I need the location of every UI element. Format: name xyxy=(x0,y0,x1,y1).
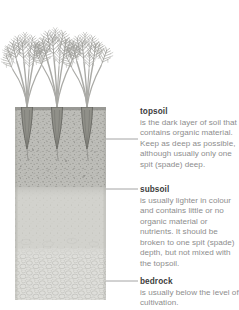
annotation-body-subsoil: is usually lighter in colour and contain… xyxy=(140,196,239,270)
soil-column xyxy=(15,107,106,300)
annotation-title-bedrock: bedrock xyxy=(140,276,239,287)
subsoil-layer xyxy=(15,185,106,248)
carrot-foliage-group xyxy=(0,28,115,107)
annotations-column: topsoil is the dark layer of soil that c… xyxy=(140,0,239,310)
column-left-shading xyxy=(15,107,18,300)
carrot-plant-2 xyxy=(29,28,85,107)
soil-profile-drawing xyxy=(0,0,135,310)
annotation-title-subsoil: subsoil xyxy=(140,184,239,195)
column-right-shading xyxy=(104,107,107,300)
annotation-body-bedrock: is usually below the level of cultivatio… xyxy=(140,288,239,309)
annotation-bedrock: bedrock is usually below the level of cu… xyxy=(140,276,239,309)
annotation-body-topsoil: is the dark layer of soil that contains … xyxy=(140,118,239,171)
annotation-topsoil: topsoil is the dark layer of soil that c… xyxy=(140,106,239,170)
annotation-title-topsoil: topsoil xyxy=(140,106,239,117)
bedrock-layer xyxy=(15,246,106,300)
annotation-subsoil: subsoil is usually lighter in colour and… xyxy=(140,184,239,270)
soil-profile-illustration xyxy=(0,0,135,310)
